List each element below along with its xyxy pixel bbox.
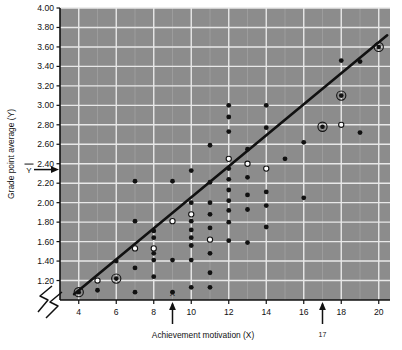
y-mean-label: Y [26, 166, 32, 175]
data-point-filled [114, 276, 119, 281]
data-point-open [95, 278, 100, 283]
y-tick-label: 2.00 [37, 198, 54, 208]
y-tick-label: 3.60 [37, 42, 54, 52]
x-mean-arrow-head [169, 302, 176, 310]
y-tick-label: 3.80 [37, 22, 54, 32]
data-point-filled [245, 240, 250, 245]
data-point-filled [226, 129, 231, 134]
y-tick-label: 1.80 [37, 217, 54, 227]
data-point-filled [208, 212, 213, 217]
y-axis-title: Grade point average (Y) [6, 109, 16, 199]
data-point-open [226, 156, 231, 161]
data-point-filled [264, 203, 269, 208]
y-tick-label: 2.60 [37, 139, 54, 149]
data-point-filled [245, 207, 250, 212]
chart-figure: 1.201.401.601.802.002.202.402.602.803.00… [0, 0, 402, 350]
data-point-filled [208, 180, 213, 185]
data-point-open [189, 212, 194, 217]
data-point-filled [189, 228, 194, 233]
data-point-filled [226, 103, 231, 108]
data-point-filled [208, 251, 213, 256]
data-point-filled [245, 192, 250, 197]
data-point-filled [189, 219, 194, 224]
plot-background [60, 8, 390, 300]
data-point-filled [264, 103, 269, 108]
data-point-filled [133, 265, 138, 270]
x-tick-label: 16 [299, 307, 309, 317]
extra-tick-marker [319, 302, 326, 324]
y-tick-label: 3.40 [37, 61, 54, 71]
data-point-open [264, 166, 269, 171]
x-tick-label: 4 [76, 307, 81, 317]
data-point-filled [133, 290, 138, 295]
data-point-open [151, 246, 156, 251]
x-tick-label: 18 [336, 307, 346, 317]
data-point-filled [283, 156, 288, 161]
data-point-filled [208, 143, 213, 148]
data-point-filled [208, 226, 213, 231]
data-point-filled [264, 190, 269, 195]
x-tick-label: 8 [151, 307, 156, 317]
data-point-filled [170, 258, 175, 263]
data-point-filled [189, 258, 194, 263]
data-point-filled [245, 175, 250, 180]
x-tick-label: 10 [186, 307, 196, 317]
data-point-filled [133, 219, 138, 224]
y-mean-arrow-head [51, 166, 59, 173]
data-point-open [132, 246, 137, 251]
y-tick-label: 3.20 [37, 81, 54, 91]
data-point-filled [189, 200, 194, 205]
data-point-filled [301, 195, 306, 200]
data-point-filled [151, 235, 156, 240]
data-point-open [170, 219, 175, 224]
data-point-filled [226, 188, 231, 193]
x-axis-ticks: 468101214161820 [76, 300, 383, 317]
y-axis-ticks: 1.201.401.601.802.002.202.402.602.803.00… [37, 3, 60, 286]
x-tick-label: 20 [374, 307, 384, 317]
data-point-filled [208, 285, 213, 290]
x-mean-label: X [170, 289, 176, 298]
extra-tick-arrow-head [319, 302, 326, 310]
x-tick-label: 14 [261, 307, 271, 317]
y-tick-label: 1.40 [37, 256, 54, 266]
data-point-filled [339, 93, 344, 98]
data-point-filled [226, 208, 231, 213]
data-point-filled [320, 124, 325, 129]
y-tick-label: 1.60 [37, 237, 54, 247]
data-point-filled [339, 58, 344, 63]
y-tick-label: 2.20 [37, 178, 54, 188]
data-point-filled [226, 198, 231, 203]
data-point-filled [114, 259, 119, 264]
data-point-filled [208, 270, 213, 275]
y-tick-label: 2.80 [37, 120, 54, 130]
data-point-filled [301, 140, 306, 145]
data-point-open [245, 161, 250, 166]
data-point-filled [133, 179, 138, 184]
data-point-filled [264, 125, 269, 130]
data-point-filled [226, 166, 231, 171]
data-point-filled [208, 200, 213, 205]
y-tick-label: 4.00 [37, 3, 54, 13]
data-point-filled [358, 59, 363, 64]
axis-break-mark-1 [38, 286, 52, 312]
y-tick-label: 1.20 [37, 276, 54, 286]
data-point-filled [226, 115, 231, 120]
data-point-filled [226, 177, 231, 182]
data-point-filled [358, 130, 363, 135]
data-point-filled [189, 168, 194, 173]
y-tick-label: 3.00 [37, 100, 54, 110]
x-tick-label: 12 [224, 307, 234, 317]
data-point-filled [151, 251, 156, 256]
x-tick-label: 6 [114, 307, 119, 317]
data-point-filled [189, 235, 194, 240]
data-point-filled [245, 147, 250, 152]
scatter-plot-svg: 1.201.401.601.802.002.202.402.602.803.00… [0, 0, 402, 350]
x-mean-marker [169, 302, 176, 324]
data-point-open [207, 237, 212, 242]
data-point-filled [376, 45, 381, 50]
data-point-filled [151, 274, 156, 279]
x-axis-title: Achievement motivation (X) [152, 330, 255, 340]
data-point-filled [189, 285, 194, 290]
data-point-filled [170, 179, 175, 184]
data-point-filled [226, 220, 231, 225]
